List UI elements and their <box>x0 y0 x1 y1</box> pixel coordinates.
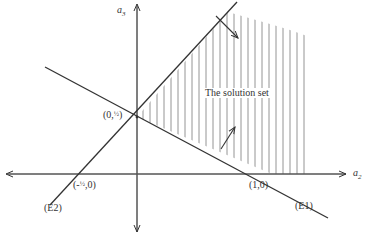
line-e1 <box>45 67 328 218</box>
point-label-top: (0,½) <box>103 110 122 120</box>
solution-set-hatching <box>143 0 304 237</box>
point-label-right: (1,0) <box>249 180 268 190</box>
region-label: The solution set <box>204 88 270 98</box>
vertical-axis-label: a3 <box>117 5 126 18</box>
point-label-left: (-½,0) <box>73 180 96 190</box>
line-label-e1: (E1) <box>295 201 313 211</box>
horizontal-axis-label: a2 <box>353 168 362 181</box>
e1-direction-arrow <box>221 127 235 149</box>
point-intersection <box>136 116 139 119</box>
line-e2 <box>50 2 237 205</box>
line-label-e2: (E2) <box>44 203 62 213</box>
